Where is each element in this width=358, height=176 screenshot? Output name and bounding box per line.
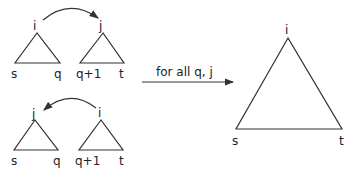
bottom-left-tree: j s q bbox=[11, 107, 61, 168]
curved-arrow-icon bbox=[44, 98, 96, 110]
root-label: j bbox=[31, 107, 35, 121]
root-label: i bbox=[33, 19, 36, 33]
top-right-tree: j q+1 t bbox=[76, 19, 124, 81]
root-label: i bbox=[98, 106, 101, 120]
right-leaf-label: t bbox=[119, 154, 124, 168]
left-leaf-label: s bbox=[11, 67, 17, 81]
root-label: j bbox=[98, 19, 102, 33]
result-tree: i s t bbox=[232, 23, 344, 148]
bottom-right-tree: i q+1 t bbox=[75, 106, 124, 168]
root-label: i bbox=[285, 23, 288, 37]
diagram-canvas: i s q j q+1 t j s q i q+1 t for all q, j… bbox=[0, 0, 358, 176]
curved-arrow-icon bbox=[43, 8, 98, 20]
right-leaf-label: t bbox=[339, 134, 344, 148]
left-leaf-label: s bbox=[11, 154, 17, 168]
arrow-label: for all q, j bbox=[156, 65, 213, 79]
right-leaf-label: q bbox=[53, 154, 61, 168]
left-leaf-label: q+1 bbox=[76, 67, 101, 81]
left-leaf-label: s bbox=[232, 134, 238, 148]
right-leaf-label: t bbox=[119, 67, 124, 81]
right-leaf-label: q bbox=[54, 67, 62, 81]
left-leaf-label: q+1 bbox=[75, 154, 100, 168]
implication-arrow: for all q, j bbox=[142, 65, 233, 82]
top-left-tree: i s q bbox=[11, 19, 62, 81]
